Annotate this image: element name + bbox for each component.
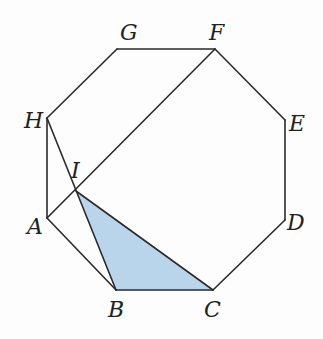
label-c: C [204,297,221,322]
octagon-diagram: G F H E I A D B C [0,0,323,339]
label-i: I [70,158,81,183]
label-a: A [25,214,43,239]
segment-ef [215,49,285,120]
segment-cd [213,220,285,290]
segments [47,49,285,290]
label-b: B [107,297,124,322]
segment-af [47,49,215,218]
segment-hb [47,118,116,290]
diagram-svg: G F H E I A D B C [0,0,323,339]
segment-gh [47,49,117,118]
label-e: E [288,111,305,136]
label-f: F [208,20,225,45]
label-h: H [23,108,44,133]
label-d: D [286,210,305,235]
label-g: G [120,20,138,45]
